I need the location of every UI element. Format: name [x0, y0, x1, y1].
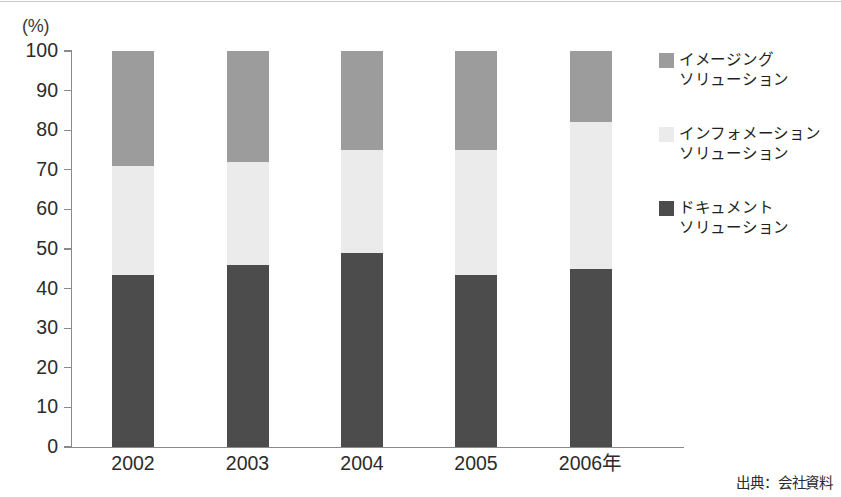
y-axis-tick-label: 80 [12, 120, 58, 140]
bar-segment-imaging [227, 51, 269, 162]
legend-label: インフォメーション ソリューション [679, 124, 820, 164]
legend-swatch-icon [659, 53, 674, 68]
y-axis-tick-30 [64, 328, 72, 329]
y-axis-tick-50 [64, 248, 72, 249]
y-axis-tick-label: 90 [12, 81, 58, 101]
source-note: 出典：会社資料 [0, 471, 833, 492]
bar-segment-imaging [455, 51, 497, 150]
y-axis-tick-100 [64, 50, 72, 51]
bar-segment-document [112, 275, 154, 447]
y-axis-unit-label: (%) [22, 16, 49, 37]
y-axis-tick-20 [64, 367, 72, 368]
y-axis-tick-label: 60 [12, 199, 58, 219]
x-axis-line [71, 447, 684, 448]
legend-label: イメージング ソリューション [679, 50, 789, 90]
y-axis-tick-label: 50 [12, 239, 58, 259]
bar-segment-document [341, 253, 383, 447]
y-axis-tick-10 [64, 407, 72, 408]
y-axis-tick-label: 30 [12, 318, 58, 338]
legend-swatch-icon [659, 201, 674, 216]
bar-segment-information [341, 150, 383, 253]
y-axis-tick-40 [64, 288, 72, 289]
y-axis-tick-0 [64, 446, 72, 447]
legend-item-0[interactable]: イメージング ソリューション [659, 50, 789, 90]
legend-item-2[interactable]: ドキュメント ソリューション [659, 198, 789, 238]
bar-segment-document [455, 275, 497, 447]
bar-2004 [341, 51, 383, 447]
y-axis-tick-60 [64, 209, 72, 210]
y-axis-tick-label: 70 [12, 160, 58, 180]
legend-label: ドキュメント ソリューション [679, 198, 789, 238]
bar-2006年 [570, 51, 612, 447]
bar-segment-information [455, 150, 497, 275]
bar-segment-imaging [112, 51, 154, 166]
bar-segment-document [227, 265, 269, 447]
y-axis-tick-label: 10 [12, 397, 58, 417]
bar-segment-imaging [341, 51, 383, 150]
bar-segment-information [227, 162, 269, 265]
bar-segment-information [570, 122, 612, 269]
bar-2002 [112, 51, 154, 447]
bar-2003 [227, 51, 269, 447]
legend-swatch-icon [659, 127, 674, 142]
y-axis-tick-label: 20 [12, 358, 58, 378]
y-axis-tick-80 [64, 130, 72, 131]
y-axis-tick-label: 0 [12, 437, 58, 457]
bar-segment-document [570, 269, 612, 447]
y-axis-tick-90 [64, 90, 72, 91]
chart-page: (%) 1009080706050403020100 2002200320042… [0, 0, 841, 497]
bar-2005 [455, 51, 497, 447]
y-axis-tick-70 [64, 169, 72, 170]
y-axis-tick-label: 40 [12, 279, 58, 299]
y-axis-tick-label: 100 [12, 41, 58, 61]
bar-segment-information [112, 166, 154, 275]
bar-segment-imaging [570, 51, 612, 122]
plot-area: (%) 1009080706050403020100 2002200320042… [0, 0, 841, 497]
legend-item-1[interactable]: インフォメーション ソリューション [659, 124, 820, 164]
